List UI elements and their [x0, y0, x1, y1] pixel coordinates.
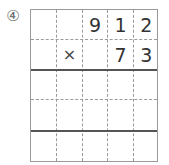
multiply-sign: × — [57, 40, 83, 70]
digit-cell — [82, 40, 108, 70]
digit-cell — [57, 10, 83, 40]
row-divider — [31, 99, 157, 100]
digit-cell — [31, 10, 57, 40]
multiplication-grid: 9 1 2 × 7 3 — [30, 9, 158, 162]
problem-number-label: ④ — [4, 7, 22, 25]
digit-cell: 1 — [108, 10, 134, 40]
sum-line — [31, 130, 157, 132]
digit-cell: 7 — [108, 40, 134, 70]
digit-cell — [31, 40, 57, 70]
digit-cell: 2 — [133, 10, 159, 40]
digit-cell: 3 — [133, 40, 159, 70]
digit-cell: 9 — [82, 10, 108, 40]
